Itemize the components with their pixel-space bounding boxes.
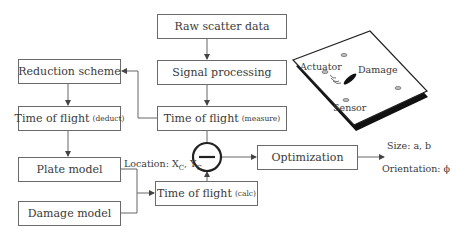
plate-model-box: Plate model bbox=[18, 157, 121, 182]
tof-calc-qualifier: (calc) bbox=[235, 189, 256, 198]
optimization-label: Optimization bbox=[272, 151, 344, 164]
reduction-scheme-label: Reduction scheme bbox=[18, 65, 121, 78]
sensor-label: Sensor bbox=[333, 102, 366, 113]
damage-model-label: Damage model bbox=[28, 207, 112, 220]
tof-calc-label: Time of flight bbox=[157, 187, 232, 200]
tof-deduct-qualifier: (deduct) bbox=[92, 114, 124, 123]
optimization-box: Optimization bbox=[257, 145, 358, 170]
tof-measure-box: Time of flight (measure) bbox=[157, 106, 287, 131]
plate-illustration bbox=[293, 31, 428, 131]
raw-scatter-data-label: Raw scatter data bbox=[174, 20, 269, 33]
raw-scatter-data-box: Raw scatter data bbox=[157, 14, 287, 39]
tof-calc-box: Time of flight (calc) bbox=[155, 181, 258, 206]
actuator-label: Actuator bbox=[300, 61, 342, 72]
tof-measure-qualifier: (measure) bbox=[242, 114, 281, 123]
signal-processing-label: Signal processing bbox=[172, 66, 271, 79]
plate-model-label: Plate model bbox=[36, 163, 102, 176]
tof-deduct-box: Time of flight (deduct) bbox=[18, 106, 121, 131]
location-label: Location: XC, YC bbox=[124, 158, 202, 172]
reduction-scheme-box: Reduction scheme bbox=[18, 59, 121, 84]
size-label: Size: a, b bbox=[387, 140, 431, 151]
signal-processing-box: Signal processing bbox=[157, 60, 287, 85]
tof-measure-label: Time of flight bbox=[164, 112, 239, 125]
damage-label: Damage bbox=[358, 64, 398, 75]
orientation-label: Orientation: ϕ bbox=[382, 163, 450, 174]
tof-deduct-label: Time of flight bbox=[15, 112, 90, 125]
damage-model-box: Damage model bbox=[18, 201, 121, 226]
